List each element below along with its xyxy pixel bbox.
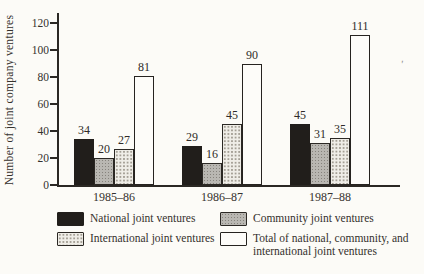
legend-item-total: Total of national, community, and intern…: [220, 232, 421, 257]
bar-value-series0-group0: 34: [69, 124, 99, 137]
y-tick-label-40: 40: [11, 124, 49, 138]
bar-value-series3-group0: 81: [129, 61, 159, 74]
y-tick-40: [50, 130, 57, 132]
legend-item-international: International joint ventures: [57, 232, 215, 246]
international-swatch-icon: [57, 232, 84, 246]
bar-value-series3-group2: 111: [345, 20, 375, 33]
y-tick-100: [50, 49, 57, 51]
y-tick-label-100: 100: [11, 43, 49, 57]
bar-series3-group0: [134, 76, 154, 185]
bar-value-series3-group1: 90: [237, 49, 267, 62]
legend-column-left: National joint ventures International jo…: [57, 212, 215, 252]
x-category-label-0: 1985–86: [74, 190, 154, 204]
x-category-label-1: 1986–87: [182, 190, 262, 204]
plot-axes: 020406080100120342027811985–862916459019…: [57, 13, 400, 187]
legend-item-community: Community joint ventures: [220, 212, 421, 226]
bar-series2-group2: [330, 138, 350, 185]
y-tick-label-80: 80: [11, 70, 49, 84]
y-tick-label-60: 60: [11, 97, 49, 111]
scanned-bar-chart-figure: Number of joint company ventures 0204060…: [0, 0, 424, 274]
legend-label-total: Total of national, community, and intern…: [253, 232, 421, 257]
bar-series2-group0: [114, 149, 134, 185]
legend-label-national: National joint ventures: [90, 212, 195, 225]
bar-series1-group2: [310, 143, 330, 185]
bar-value-series0-group2: 45: [285, 109, 315, 122]
y-tick-80: [50, 76, 57, 78]
legend-label-international: International joint ventures: [90, 232, 215, 245]
bar-series1-group1: [202, 163, 222, 185]
y-tick-20: [50, 157, 57, 159]
y-tick-label-20: 20: [11, 151, 49, 165]
y-tick-60: [50, 103, 57, 105]
legend-label-community: Community joint ventures: [253, 212, 374, 225]
total-swatch-icon: [220, 232, 247, 246]
bar-series3-group2: [350, 35, 370, 185]
y-tick-0: [50, 184, 57, 186]
national-swatch-icon: [57, 212, 84, 226]
y-tick-120: [50, 22, 57, 24]
community-swatch-icon: [220, 212, 247, 226]
y-tick-label-0: 0: [11, 178, 49, 192]
y-tick-label-120: 120: [11, 16, 49, 30]
legend-column-right: Community joint ventures Total of nation…: [220, 212, 421, 263]
bar-series2-group1: [222, 124, 242, 185]
bar-series3-group1: [242, 64, 262, 186]
bar-value-series0-group1: 29: [177, 131, 207, 144]
scan-artifact-mark: ': [400, 58, 404, 70]
x-category-label-2: 1987–88: [290, 190, 370, 204]
bar-series1-group0: [94, 158, 114, 185]
legend-item-national: National joint ventures: [57, 212, 215, 226]
